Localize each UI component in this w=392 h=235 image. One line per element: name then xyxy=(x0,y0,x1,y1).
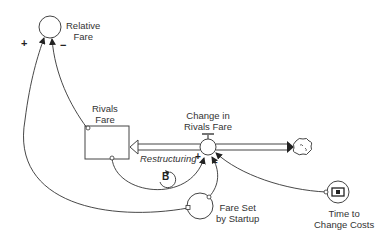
rivals-fare-label-line1: Rivals xyxy=(92,103,118,114)
change-label-line2: Rivals Fare xyxy=(184,121,232,132)
loop-polarity-label: B xyxy=(162,171,169,182)
minus-sign-flow: − xyxy=(212,157,218,168)
fare-set-by-startup-label: Fare Set by Startup xyxy=(216,202,259,224)
relative-fare-label: Relative Fare xyxy=(66,20,100,42)
change-in-rivals-fare-label: Change in Rivals Fare xyxy=(184,110,232,132)
minus-sign-relative: − xyxy=(60,39,66,51)
link-rivalsfare-to-relativefare xyxy=(52,39,87,128)
flow-arrowhead xyxy=(130,140,138,154)
fare-set-label-line1: Fare Set xyxy=(216,202,259,213)
plus-sign-relative: + xyxy=(21,37,27,49)
loop-name-label: Restructuring xyxy=(140,153,197,164)
change-label-line1: Change in xyxy=(184,110,232,121)
relative-fare-label-line1: Relative xyxy=(66,20,100,31)
relative-fare-label-line2: Fare xyxy=(66,31,100,42)
constant-icon xyxy=(332,188,344,196)
rivals-fare-label-line2: Fare xyxy=(92,114,118,125)
change-in-rivals-fare-valve[interactable] xyxy=(200,139,216,155)
plus-sign-flow: + xyxy=(195,151,201,162)
rivals-fare-stock[interactable] xyxy=(85,126,129,159)
fare-set-label-line2: by Startup xyxy=(216,213,259,224)
time-label-line1: Time to xyxy=(314,208,374,219)
rivals-fare-label: Rivals Fare xyxy=(92,103,118,125)
time-label-line2: Change Costs xyxy=(314,219,374,230)
time-to-change-costs-label: Time to Change Costs xyxy=(314,208,374,230)
relative-fare-node[interactable] xyxy=(39,16,61,38)
valve-handle-icon xyxy=(202,134,214,139)
link-timetochange-to-change xyxy=(216,153,326,192)
cloud-icon xyxy=(293,138,311,154)
